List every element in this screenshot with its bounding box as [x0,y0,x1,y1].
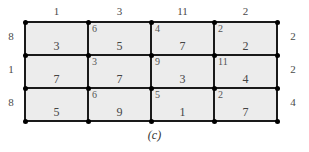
cell-corner-value: 9 [155,56,160,68]
figure-caption: (c) [0,128,309,143]
edge-label-left-2: 1 [2,63,20,76]
cell-center-value: 7 [151,39,214,53]
grid-node [149,20,154,25]
grid-node [23,20,28,25]
cell-corner-value: 2 [218,23,223,35]
cell-center-value: 4 [214,72,277,86]
cell-corner-value: 2 [218,89,223,101]
edge-label-left-3: 8 [2,96,20,109]
grid-node [149,86,154,91]
cell-center-value: 7 [214,105,277,119]
grid-node [86,119,91,124]
cell-corner-value: 6 [92,89,97,101]
cell-center-value: 2 [214,39,277,53]
grid-node [212,53,217,58]
cell-center-value: 5 [88,39,151,53]
edge-label-top-1: 1 [25,5,88,18]
edge-label-right-1: 2 [284,30,302,43]
grid-line-vertical [213,21,215,122]
grid-node [23,86,28,91]
cell-corner-value: 4 [155,23,160,35]
grid-node [275,119,280,124]
grid-cell: 2 2 [214,22,277,55]
grid-line-vertical [276,21,278,122]
cell-center-value: 3 [151,72,214,86]
grid-node [275,20,280,25]
grid-node [212,119,217,124]
figure-container: 1 3 11 2 8 1 8 2 2 4 3 6 5 4 7 2 2 7 [0,0,309,152]
grid-node [212,86,217,91]
grid-cell: 5 1 [151,88,214,121]
grid-node [86,20,91,25]
cell-corner-value: 6 [92,23,97,35]
grid-line-vertical [87,21,89,122]
grid-cell: 3 [25,22,88,55]
grid-cell: 6 9 [88,88,151,121]
cell-center-value: 7 [88,72,151,86]
edge-label-top-2: 3 [88,5,151,18]
grid-node [149,119,154,124]
cell-corner-value: 3 [92,56,97,68]
cell-corner-value: 5 [155,89,160,101]
grid-node [23,53,28,58]
grid-node [212,20,217,25]
cell-center-value: 7 [25,72,88,86]
cell-center-value: 1 [151,105,214,119]
edge-label-left-1: 8 [2,30,20,43]
grid-cell: 6 5 [88,22,151,55]
grid-cell: 5 [25,88,88,121]
cell-center-value: 3 [25,39,88,53]
edge-label-top-3: 11 [151,5,214,18]
edge-label-right-2: 2 [284,63,302,76]
grid-cell: 4 7 [151,22,214,55]
grid-cell: 11 4 [214,55,277,88]
grid-node [86,86,91,91]
grid-cell: 9 3 [151,55,214,88]
grid-cell: 7 [25,55,88,88]
cell-corner-value: 11 [218,56,228,68]
grid-cell: 2 7 [214,88,277,121]
grid-line-vertical [150,21,152,122]
grid-line-vertical [24,21,26,122]
cell-center-value: 5 [25,105,88,119]
cell-center-value: 9 [88,105,151,119]
grid-node [86,53,91,58]
edge-label-right-3: 4 [284,96,302,109]
grid-node [23,119,28,124]
grid-node [275,86,280,91]
grid-node [275,53,280,58]
grid: 3 6 5 4 7 2 2 7 3 7 9 3 11 4 [25,22,278,121]
grid-node [149,53,154,58]
grid-cell: 3 7 [88,55,151,88]
edge-label-top-4: 2 [214,5,277,18]
